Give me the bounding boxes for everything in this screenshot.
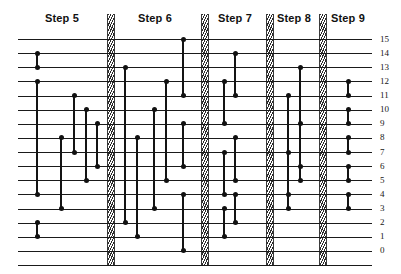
comparator-node (286, 93, 291, 98)
comparator-node (95, 164, 100, 169)
comparator-node (164, 79, 169, 84)
comparator-node (84, 107, 89, 112)
wire-label-14: 14 (380, 49, 389, 58)
comparator-node (72, 150, 77, 155)
comparator-node (222, 79, 227, 84)
wire-label-0: 0 (380, 246, 385, 255)
comparator-node (181, 192, 186, 197)
comparator-node (346, 164, 351, 169)
comparator-node (233, 220, 238, 225)
wire-label-8: 8 (380, 133, 385, 142)
comparator-node (135, 234, 140, 239)
comparator-node (152, 206, 157, 211)
comparator-node (35, 65, 40, 70)
comparator-line (234, 138, 235, 180)
comparator-node (222, 192, 227, 197)
step-divider-3 (266, 14, 274, 265)
comparator-line (287, 152, 288, 209)
comparator-line (60, 138, 61, 209)
comparator-node (346, 107, 351, 112)
wire-label-3: 3 (380, 204, 385, 213)
wire-line-4 (18, 194, 372, 195)
comparator-node (59, 206, 64, 211)
comparator-node (346, 150, 351, 155)
comparator-node (233, 192, 238, 197)
wire-label-7: 7 (380, 148, 385, 157)
comparator-node (123, 220, 128, 225)
comparator-node (35, 51, 40, 56)
wire-line-2 (18, 223, 372, 224)
wire-label-12: 12 (380, 77, 389, 86)
comparator-node (222, 206, 227, 211)
wire-line-8 (18, 138, 372, 139)
comparator-node (298, 65, 303, 70)
wire-line-15 (18, 39, 372, 40)
step-divider-2 (201, 14, 209, 265)
comparator-node (181, 37, 186, 42)
comparator-node (346, 93, 351, 98)
wire-label-13: 13 (380, 63, 389, 72)
comparator-node (346, 135, 351, 140)
bottom-rule (18, 265, 372, 266)
comparator-line (153, 110, 154, 209)
comparator-node (222, 121, 227, 126)
wire-label-2: 2 (380, 218, 385, 227)
wire-label-15: 15 (380, 35, 389, 44)
comparator-node (222, 234, 227, 239)
wire-line-3 (18, 209, 372, 210)
comparator-line (223, 152, 224, 194)
comparator-node (222, 150, 227, 155)
comparator-line (165, 81, 166, 180)
comparator-node (346, 121, 351, 126)
comparator-node (346, 79, 351, 84)
wire-line-14 (18, 53, 372, 54)
comparator-line (182, 39, 183, 96)
comparator-node (59, 135, 64, 140)
comparator-node (35, 79, 40, 84)
comparator-node (346, 206, 351, 211)
wire-line-10 (18, 110, 372, 111)
comparator-line (223, 209, 224, 237)
wire-label-9: 9 (380, 119, 385, 128)
wire-line-12 (18, 81, 372, 82)
wire-line-13 (18, 67, 372, 68)
comparator-node (346, 192, 351, 197)
comparator-node (181, 248, 186, 253)
wire-line-1 (18, 237, 372, 238)
comparator-node (286, 206, 291, 211)
step-label-1: Step 5 (32, 12, 92, 24)
comparator-node (135, 135, 140, 140)
comparator-node (298, 121, 303, 126)
comparator-node (233, 93, 238, 98)
network-diagram-canvas: Step 5Step 6Step 7Step 8Step 9 151413121… (0, 0, 401, 274)
step-divider-1 (107, 14, 115, 265)
wire-line-6 (18, 166, 372, 167)
comparator-line (182, 124, 183, 166)
comparator-node (35, 220, 40, 225)
comparator-line (136, 138, 137, 237)
comparator-line (234, 194, 235, 222)
comparator-node (181, 93, 186, 98)
comparator-node (35, 192, 40, 197)
wire-line-5 (18, 180, 372, 181)
comparator-line (299, 124, 300, 181)
comparator-node (181, 164, 186, 169)
comparator-node (95, 121, 100, 126)
comparator-node (123, 65, 128, 70)
comparator-line (124, 67, 125, 222)
comparator-node (233, 178, 238, 183)
wire-label-10: 10 (380, 105, 389, 114)
wire-line-0 (18, 251, 372, 252)
comparator-line (182, 194, 183, 251)
step-divider-4 (319, 14, 327, 265)
comparator-node (233, 135, 238, 140)
comparator-node (164, 178, 169, 183)
wire-label-11: 11 (380, 91, 389, 100)
comparator-line (36, 81, 37, 194)
step-label-3: Step 7 (205, 12, 265, 24)
comparator-line (73, 96, 74, 153)
comparator-node (298, 178, 303, 183)
wire-label-5: 5 (380, 176, 385, 185)
wire-label-6: 6 (380, 162, 385, 171)
step-label-5: Step 9 (318, 12, 378, 24)
